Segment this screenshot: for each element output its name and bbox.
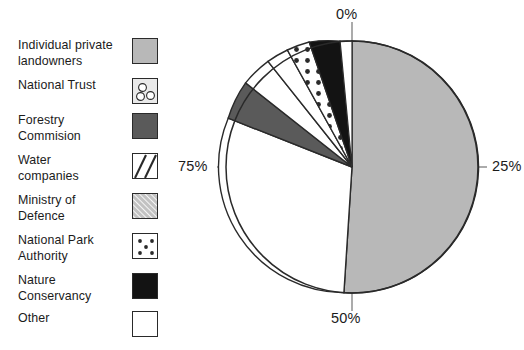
legend-swatch-hatch (132, 193, 158, 219)
legend-label: National Trust (18, 78, 128, 94)
tick-label-75: 75% (178, 158, 208, 174)
legend-label: Ministry of Defence (18, 193, 128, 224)
legend-swatch-solid-black (132, 273, 158, 299)
tick-label-25: 25% (492, 158, 522, 174)
legend-swatch-solid-dark (132, 113, 158, 139)
tick-label-0: 0% (336, 6, 357, 22)
pie-chart: 0% 25% 50% 75% (170, 0, 524, 350)
chart-canvas: Individual private landowners National T… (0, 0, 524, 350)
legend-label: Nature Conservancy (18, 273, 128, 304)
pie-slices (218, 41, 478, 293)
legend-swatch-circles (132, 78, 158, 104)
legend-swatch-solid-grey (132, 38, 158, 64)
legend-label: Other (18, 311, 128, 327)
pie-svg (170, 0, 524, 350)
legend-swatch-white (132, 311, 158, 337)
chart-legend: Individual private landowners National T… (0, 0, 170, 350)
legend-label: Individual private landowners (18, 38, 128, 69)
tick-label-50: 50% (331, 310, 361, 326)
legend-swatch-dots (132, 233, 158, 259)
legend-label: National Park Authority (18, 233, 128, 264)
legend-label: Forestry Commision (18, 113, 128, 144)
pie-slice-individual-private-landowners[interactable] (344, 41, 479, 293)
legend-label: Water companies (18, 153, 128, 184)
legend-swatch-diagonals (132, 153, 158, 179)
